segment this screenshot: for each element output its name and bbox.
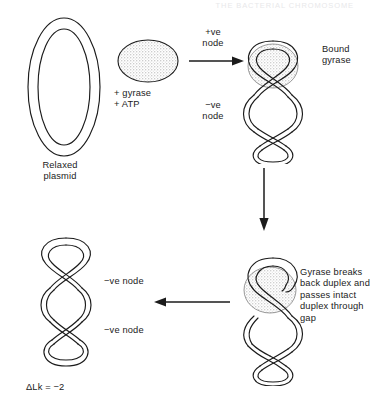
- negative-node-label-upper: −ve node: [104, 276, 174, 287]
- linking-number-change-label: ΔLk = −2: [26, 382, 136, 393]
- strand-passage-caption: Gyrase breaks back duplex and passes int…: [300, 267, 384, 324]
- page-running-header: THE BACTERIAL CHROMOSOME: [216, 1, 354, 10]
- relaxed-plasmid-graphic: [18, 12, 116, 162]
- arrow-left-step3: [152, 294, 232, 310]
- supercoiled-product-graphic: [22, 234, 112, 382]
- bound-gyrase-graphic: [228, 14, 318, 164]
- negative-node-label-lower: −ve node: [104, 325, 174, 336]
- figure-canvas: THE BACTERIAL CHROMOSOME Relaxed plasmid…: [0, 0, 384, 408]
- gyrase-enzyme-icon: [115, 36, 181, 86]
- bound-gyrase-label: Bound gyrase: [322, 44, 382, 67]
- arrow-down-step2: [255, 168, 273, 232]
- enzyme-label: + gyrase + ATP: [114, 88, 194, 111]
- relaxed-plasmid-label: Relaxed plasmid: [22, 160, 98, 183]
